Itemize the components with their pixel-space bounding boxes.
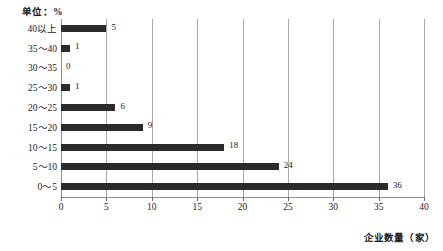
bar-value-label: 18 bbox=[229, 139, 238, 151]
x-tick-label-10: 10 bbox=[147, 201, 157, 213]
x-tick-label-35: 35 bbox=[374, 201, 384, 213]
plot-area: 510169182436 bbox=[61, 19, 424, 197]
bar-value-label: 36 bbox=[393, 179, 402, 191]
bar-row: 1 bbox=[61, 78, 424, 98]
x-tick-label-15: 15 bbox=[192, 201, 202, 213]
x-tick-label-5: 5 bbox=[104, 201, 109, 213]
bar-value-label: 0 bbox=[66, 60, 71, 72]
bar-value-label: 5 bbox=[111, 21, 116, 33]
bar bbox=[61, 104, 115, 111]
bar bbox=[61, 25, 106, 32]
y-axis-label-7: 5～10 bbox=[2, 161, 57, 173]
bar bbox=[61, 124, 143, 131]
bar-row: 0 bbox=[61, 59, 424, 79]
y-axis-label-2: 30～35 bbox=[2, 62, 57, 74]
y-axis-label-6: 10～15 bbox=[2, 142, 57, 154]
bar bbox=[61, 183, 388, 190]
x-tick-label-40: 40 bbox=[419, 201, 429, 213]
y-axis-category-labels: 40以上35～4030～3525～3020～2515～2010～155～100～… bbox=[0, 19, 57, 197]
bar bbox=[61, 45, 70, 52]
bar-row: 9 bbox=[61, 118, 424, 138]
y-axis-label-1: 35～40 bbox=[2, 43, 57, 55]
bar bbox=[61, 163, 279, 170]
x-tick-label-25: 25 bbox=[283, 201, 293, 213]
bar-value-label: 24 bbox=[284, 159, 293, 171]
bar-row: 24 bbox=[61, 157, 424, 177]
bar-row: 1 bbox=[61, 39, 424, 59]
bar-chart: 单位：% 40以上35～4030～3525～3020～2515～2010～155… bbox=[0, 0, 443, 251]
bar-value-label: 6 bbox=[120, 100, 125, 112]
x-axis-title: 企业数量（家） bbox=[364, 230, 435, 244]
bar-row: 36 bbox=[61, 177, 424, 197]
bar-row: 5 bbox=[61, 19, 424, 39]
y-axis-label-5: 15～20 bbox=[2, 122, 57, 134]
x-tick-label-0: 0 bbox=[59, 201, 64, 213]
bar bbox=[61, 144, 224, 151]
y-axis-label-8: 0～5 bbox=[2, 181, 57, 193]
bar bbox=[61, 84, 70, 91]
bar-value-label: 1 bbox=[75, 80, 80, 92]
y-axis-label-0: 40以上 bbox=[2, 23, 57, 35]
bar-value-label: 1 bbox=[75, 40, 80, 52]
bar-value-label: 9 bbox=[148, 119, 153, 131]
y-axis-label-4: 20～25 bbox=[2, 102, 57, 114]
unit-note: 单位：% bbox=[22, 4, 63, 18]
bar-row: 18 bbox=[61, 138, 424, 158]
gridline-40 bbox=[424, 19, 425, 197]
x-axis-tick-labels: 0510152025303540 bbox=[61, 201, 424, 215]
y-axis-label-3: 25～30 bbox=[2, 82, 57, 94]
bar-row: 6 bbox=[61, 98, 424, 118]
x-tick-label-30: 30 bbox=[329, 201, 339, 213]
x-tick-label-20: 20 bbox=[238, 201, 248, 213]
